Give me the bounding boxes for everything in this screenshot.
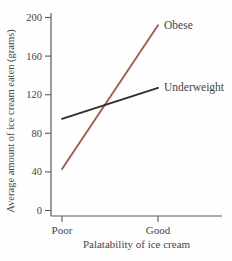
x-tick-label: Good	[146, 224, 171, 236]
y-tick-label: 200	[26, 12, 42, 23]
y-tick-label: 80	[32, 128, 43, 139]
y-axis-title: Average amount of ice cream eaten (grams…	[5, 29, 17, 213]
chart-figure: 04080120160200PoorGoodObeseUnderweightAv…	[0, 0, 232, 261]
series-label-obese: Obese	[164, 19, 193, 31]
x-axis-title: Palatability of ice cream	[83, 238, 191, 250]
y-tick-label: 40	[32, 166, 43, 177]
series-line-obese	[62, 25, 158, 169]
series-label-underweight: Underweight	[164, 81, 225, 94]
x-tick-label: Poor	[52, 224, 73, 236]
y-tick-label: 0	[37, 205, 42, 216]
y-tick-label: 160	[26, 51, 42, 62]
series-line-underweight	[62, 88, 158, 119]
y-tick-label: 120	[26, 89, 42, 100]
line-chart: 04080120160200PoorGoodObeseUnderweightAv…	[0, 0, 232, 261]
